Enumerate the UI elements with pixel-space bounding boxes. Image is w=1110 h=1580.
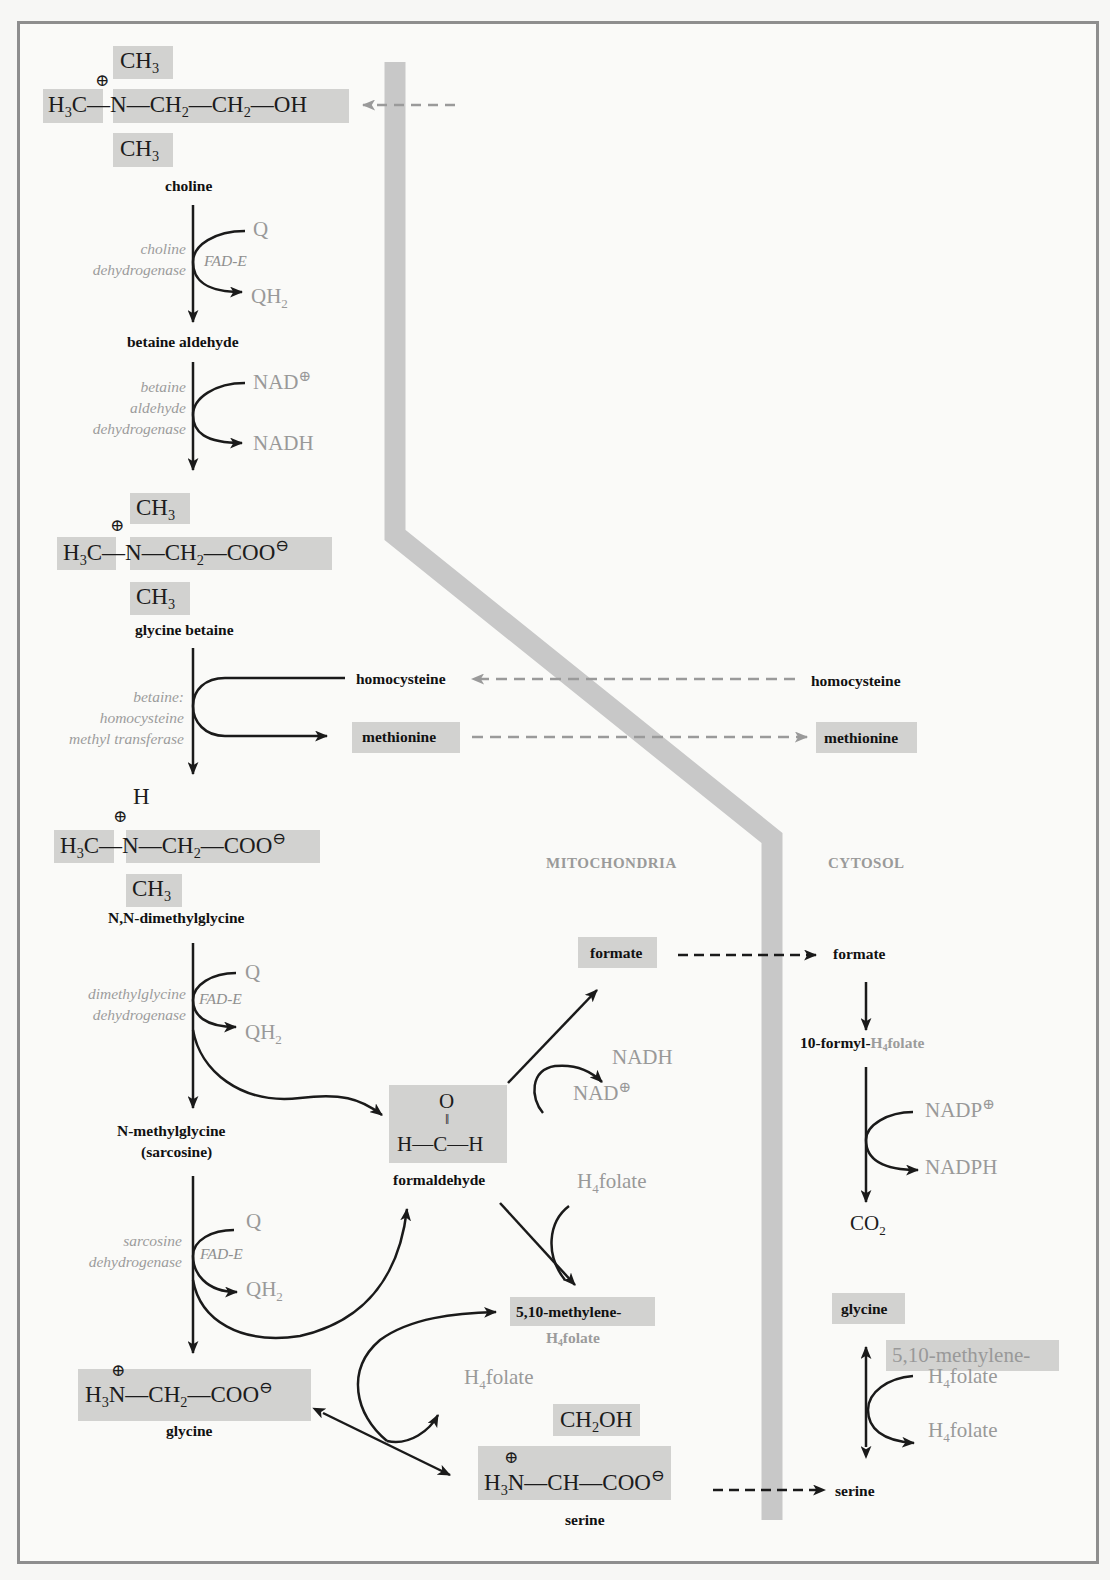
dmg-structure: H3C—N—CH2—COO⊖ xyxy=(60,834,286,857)
sarcosine-label-line1: N-methylglycine xyxy=(117,1123,225,1139)
region-mitochondria: MITOCHONDRIA xyxy=(546,856,677,871)
cofactor-h4folate-1: H4folate xyxy=(577,1171,647,1192)
choline-label: choline xyxy=(165,178,212,194)
enzyme-choline-dehydrogenase: cholinedehydrogenase xyxy=(68,238,186,280)
enzyme-bhmt: betaine:homocysteinemethyl transferase xyxy=(28,686,184,749)
glycine-charge: ⊕ xyxy=(111,1362,125,1379)
glycine-betaine-bottom-methyl: CH3 xyxy=(136,585,175,608)
cofactor-methylene-cyto-line2: H4folate xyxy=(928,1366,998,1387)
serine-charge: ⊕ xyxy=(504,1449,518,1466)
cofactor-methylene-cyto-line1: 5,10-methylene- xyxy=(892,1345,1030,1366)
fad-e-1: FAD-E xyxy=(204,253,247,269)
homocysteine-cyto-label: homocysteine xyxy=(811,673,901,689)
choline-bottom-methyl: CH3 xyxy=(120,137,159,160)
formate-mito-label: formate xyxy=(590,945,643,961)
formyl-h4folate-label: 10-formyl-H4folate xyxy=(800,1035,924,1051)
mitochondrial-membrane xyxy=(395,62,772,1520)
methylene-h4folate-mito-line2: H4folate xyxy=(546,1330,600,1346)
formaldehyde-structure: H—C—H xyxy=(397,1134,483,1155)
cofactor-nadh-1: NADH xyxy=(253,433,314,454)
sarcosine-label-line2: (sarcosine) xyxy=(141,1144,212,1160)
co2-label: CO2 xyxy=(850,1213,886,1234)
cofactor-qh2-1: QH2 xyxy=(251,286,288,307)
glycine-label: glycine xyxy=(166,1423,213,1439)
cofactor-nadp: NADP⊕ xyxy=(925,1100,995,1121)
dmg-top-h: H xyxy=(133,785,150,808)
methylene-h4folate-mito-line1: 5,10-methylene- xyxy=(516,1304,621,1320)
cofactor-qh2-3: QH2 xyxy=(246,1279,283,1300)
cofactor-q-3: Q xyxy=(246,1211,261,1232)
formaldehyde-label: formaldehyde xyxy=(393,1172,485,1188)
choline-structure: H3C—N—CH2—CH2—OH xyxy=(48,93,307,116)
cofactor-nadh-2: NADH xyxy=(612,1047,673,1068)
fad-e-3: FAD-E xyxy=(200,1246,243,1262)
serine-side-chain: CH2OH xyxy=(560,1408,632,1431)
formate-cyto-label: formate xyxy=(833,946,886,962)
glycine-structure: H3N—CH2—COO⊖ xyxy=(85,1383,273,1406)
glycine-betaine-top-methyl: CH3 xyxy=(136,496,175,519)
choline-top-methyl: CH3 xyxy=(120,49,159,72)
serine-mito-label: serine xyxy=(565,1512,605,1528)
formaldehyde-double-bond: ‖ xyxy=(445,1112,449,1127)
dmg-charge: ⊕ xyxy=(113,808,127,825)
methionine-cyto-label: methionine xyxy=(824,730,898,746)
cofactor-nad-2: NAD⊕ xyxy=(573,1083,631,1104)
cofactor-q-1: Q xyxy=(253,219,268,240)
methionine-mito-label: methionine xyxy=(362,729,436,745)
cofactor-q-2: Q xyxy=(245,962,260,983)
choline-charge: ⊕ xyxy=(95,72,109,89)
dmg-bottom-methyl: CH3 xyxy=(132,877,171,900)
serine-structure: H3N—CH—COO⊖ xyxy=(484,1471,665,1494)
region-cytosol: CYTOSOL xyxy=(828,856,905,871)
serine-cyto-label: serine xyxy=(835,1483,875,1499)
glycine-betaine-charge: ⊕ xyxy=(110,517,124,534)
fad-e-2: FAD-E xyxy=(199,991,242,1007)
homocysteine-mito-label: homocysteine xyxy=(356,671,446,687)
enzyme-sarcosine-dehydrogenase: sarcosinedehydrogenase xyxy=(50,1230,182,1272)
glycine-cyto-label: glycine xyxy=(841,1301,888,1317)
enzyme-dmg-dehydrogenase: dimethylglycinedehydrogenase xyxy=(50,983,186,1025)
cofactor-h4folate-2: H4folate xyxy=(464,1367,534,1388)
glycine-betaine-structure: H3C—N—CH2—COO⊖ xyxy=(63,541,289,564)
cofactor-nad-1: NAD⊕ xyxy=(253,372,311,393)
betaine-aldehyde-label: betaine aldehyde xyxy=(127,334,239,350)
glycine-betaine-label: glycine betaine xyxy=(135,622,234,638)
cofactor-nadph: NADPH xyxy=(925,1157,997,1178)
cofactor-h4folate-cyto: H4folate xyxy=(928,1420,998,1441)
formaldehyde-oxygen: O xyxy=(439,1091,454,1112)
enzyme-betaine-aldehyde-dehydrogenase: betainealdehydedehydrogenase xyxy=(68,376,186,439)
dmg-label: N,N-dimethylglycine xyxy=(108,910,244,926)
cofactor-qh2-2: QH2 xyxy=(245,1022,282,1043)
